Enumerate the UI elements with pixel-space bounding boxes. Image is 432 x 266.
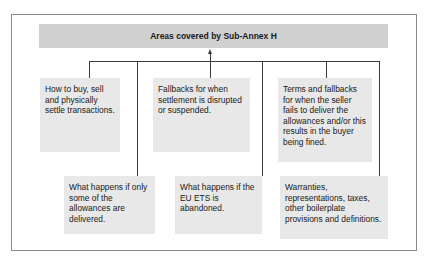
area-text: What happens if the EU ETS is abandoned. [180,182,255,213]
connector-top-2 [210,61,211,78]
area-box-buy-sell-settle: How to buy, sell and physically settle t… [40,78,120,152]
area-text: Fallbacks for when settlement is disrupt… [158,84,242,115]
area-box-ets-abandoned: What happens if the EU ETS is abandoned. [175,176,262,234]
area-box-settlement-fallbacks: Fallbacks for when settlement is disrupt… [153,78,250,152]
connector-bottom-1 [137,61,138,176]
area-box-partial-delivery: What happens if only some of the allowan… [64,176,155,234]
area-text: What happens if only some of the allowan… [69,182,147,224]
connector-bottom-3 [379,61,380,176]
area-text: Warranties, representations, taxes, othe… [285,182,381,224]
connector-top-1 [89,61,90,78]
diagram-title-box: Areas covered by Sub-Annex H [39,24,388,48]
connector-bottom-2 [262,61,263,176]
area-box-boilerplate: Warranties, representations, taxes, othe… [280,176,388,239]
diagram-title: Areas covered by Sub-Annex H [150,31,277,41]
arrow-up-icon [208,49,212,54]
area-text: Terms and fallbacks for when the seller … [283,84,366,147]
connector-top-3 [326,61,327,78]
area-box-seller-failure: Terms and fallbacks for when the seller … [278,78,372,162]
area-text: How to buy, sell and physically settle t… [45,84,115,115]
connector-bus [89,61,380,62]
